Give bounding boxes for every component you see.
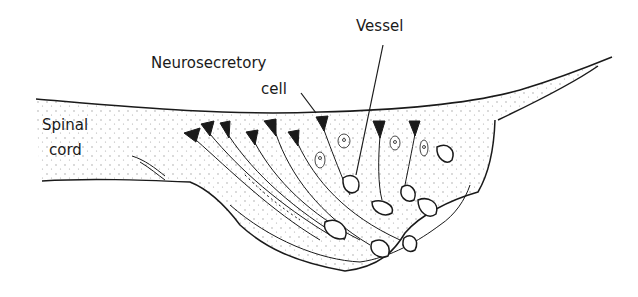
spinal-cord-label-line1: Spinal	[42, 115, 88, 135]
neurosecretory-organ-diagram	[0, 0, 638, 297]
neurosecretory-leader-line	[301, 93, 316, 113]
vessel-label: Vessel	[356, 16, 403, 36]
neurosecretory-cell-label-line2: cell	[261, 79, 287, 99]
spinal-cord-label-line2: cord	[49, 140, 82, 160]
neurosecretory-cell-label-line1: Neurosecretory	[151, 53, 266, 73]
